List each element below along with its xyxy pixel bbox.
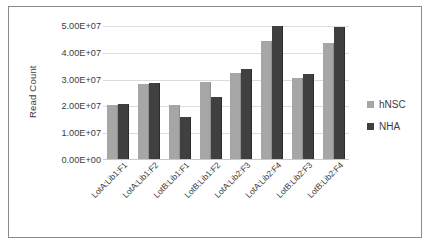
bar-nha[interactable] [241,69,252,160]
legend-item-nha[interactable]: NHA [367,121,417,132]
bar-hnsc[interactable] [107,105,118,160]
chart-frame: Read Count 0.00E+001.00E+072.00E+073.00E… [8,6,422,238]
legend-swatch-icon [367,123,374,130]
bar-nha[interactable] [149,83,160,160]
y-axis-tick-label: 5.00E+07 [45,21,101,31]
y-axis-title: Read Count [27,45,43,139]
y-axis-tick-label: 0.00E+00 [45,155,101,165]
y-axis-tick-labels: 0.00E+001.00E+072.00E+073.00E+074.00E+07… [45,26,101,160]
bar-nha[interactable] [118,104,129,160]
y-axis-tick-label: 4.00E+07 [45,48,101,58]
y-axis-tick-label: 3.00E+07 [45,75,101,85]
legend-label: NHA [379,121,400,132]
plot-area [103,26,349,160]
bar-group[interactable] [107,26,129,160]
y-axis-tick-label: 2.00E+07 [45,101,101,111]
bar-nha[interactable] [303,74,314,160]
x-axis-tick-labels: LotA:Lib1:F1LotA:Lib1:F2LotB:Lib1:F1LotB… [103,160,403,238]
y-axis-tick-label: 1.00E+07 [45,128,101,138]
chart-legend: hNSCNHA [367,99,417,143]
legend-item-hnsc[interactable]: hNSC [367,99,417,110]
legend-swatch-icon [367,101,374,108]
legend-label: hNSC [379,99,406,110]
